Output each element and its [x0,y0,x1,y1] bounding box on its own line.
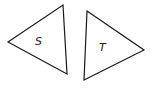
triangle-t-label: T [99,41,107,54]
triangle-t [84,11,144,80]
diagram-canvas: S T [0,0,152,91]
triangle-s-label: S [35,35,42,48]
